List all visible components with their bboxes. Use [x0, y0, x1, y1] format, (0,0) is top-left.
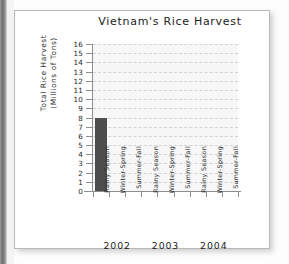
y-axis-tick	[86, 118, 92, 119]
season-label: Rainy Season	[103, 146, 110, 200]
y-axis-title: Total Rice Harvest (Millions of Tons)	[39, 13, 59, 133]
y-axis-line	[92, 44, 93, 192]
y-axis-tick-label: 12	[63, 77, 83, 86]
y-axis-tick	[86, 72, 92, 73]
gridline	[93, 62, 238, 63]
y-axis-tick	[86, 62, 92, 63]
gridline	[93, 81, 238, 82]
y-axis-tick-label: 2	[63, 169, 83, 178]
season-label: Summer-Fall	[232, 146, 239, 200]
y-axis-tick	[86, 173, 92, 174]
gridline	[93, 90, 238, 91]
gridline	[93, 136, 238, 137]
y-axis-tick-label: 3	[63, 159, 83, 168]
y-axis-tick-label: 1	[63, 178, 83, 187]
y-axis-tick-label: 7	[63, 123, 83, 132]
y-axis-tick	[86, 99, 92, 100]
y-axis-tick	[86, 182, 92, 183]
y-axis-tick-label: 15	[63, 49, 83, 58]
season-label: Winter-Spring	[168, 146, 175, 200]
gridline	[93, 72, 238, 73]
year-label: 2002	[91, 240, 143, 251]
y-axis-tick-label: 0	[63, 187, 83, 196]
gridline	[93, 53, 238, 54]
y-axis-tick	[86, 53, 92, 54]
year-label: 2004	[188, 240, 240, 251]
season-label: Summer-Fall	[184, 146, 191, 200]
gridline	[93, 127, 238, 128]
y-axis-tick-label: 8	[63, 114, 83, 123]
y-axis-tick-label: 4	[63, 150, 83, 159]
y-axis-tick	[86, 163, 92, 164]
chart-title: Vietnam's Rice Harvest	[75, 15, 265, 28]
y-axis-tick-label: 6	[63, 132, 83, 141]
year-label: 2003	[140, 240, 192, 251]
y-axis-tick-label: 10	[63, 95, 83, 104]
left-edge-rail	[0, 0, 7, 264]
y-axis-tick	[86, 136, 92, 137]
season-label: Rainy Season	[152, 146, 159, 200]
season-label: Winter-Spring	[119, 146, 126, 200]
y-axis-tick-label: 16	[63, 40, 83, 49]
y-axis-tick	[86, 108, 92, 109]
y-axis-tick-label: 5	[63, 141, 83, 150]
y-axis-tick-label: 13	[63, 68, 83, 77]
screenshot-root: Vietnam's Rice Harvest Total Rice Harves…	[0, 0, 289, 264]
left-edge-gap	[7, 0, 14, 264]
y-axis-tick	[86, 81, 92, 82]
season-label: Winter-Spring	[216, 146, 223, 200]
y-axis-tick-label: 9	[63, 104, 83, 113]
y-axis-tick	[86, 90, 92, 91]
y-axis-tick	[86, 44, 92, 45]
y-axis-tick	[86, 127, 92, 128]
y-axis-title-line-2: (Millions of Tons)	[49, 13, 59, 133]
x-axis-tick	[93, 191, 94, 197]
season-label: Summer-Fall	[135, 146, 142, 200]
y-axis-title-line-1: Total Rice Harvest	[39, 13, 49, 133]
chart-card: Vietnam's Rice Harvest Total Rice Harves…	[14, 10, 270, 249]
gridline	[93, 108, 238, 109]
y-axis-tick	[86, 154, 92, 155]
y-axis-tick	[86, 191, 92, 192]
y-axis-tick-label: 14	[63, 58, 83, 67]
gridline	[93, 118, 238, 119]
y-axis-tick	[86, 145, 92, 146]
gridline	[93, 44, 238, 45]
gridline	[93, 99, 238, 100]
y-axis-tick-label: 11	[63, 86, 83, 95]
season-label: Rainy Season	[200, 146, 207, 200]
